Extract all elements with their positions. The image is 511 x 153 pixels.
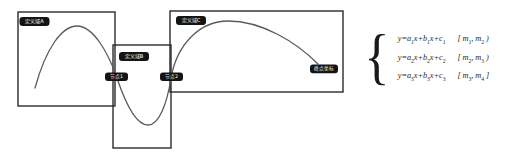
equation-interval-3: [ m3, m4 ] [457,71,489,82]
piecewise-curve-segment-a [35,26,117,88]
equation-system: { y=a1x+b1x+c1 [ m1, m2 ) y=a2x+b2x+c2 [… [362,18,510,98]
end-point-label: 终点坐标 [314,65,334,72]
domain-region-a-label: 定义域A [20,17,50,26]
node-1-marker[interactable]: 节点1 [105,73,128,82]
equation-row: y=a1x+b1x+c1 [ m1, m2 ) [398,34,489,45]
equation-interval-2: [ m2, m3 ) [457,53,488,64]
node-2-marker[interactable]: 节点2 [160,73,183,82]
domain-region-b-label-text: 定义域B [125,53,144,60]
domain-region-a-label-text: 定义域A [25,18,44,25]
piecewise-curve-segment-c [171,21,318,78]
piecewise-curve-segment-b [117,78,171,125]
equation-expression-3: y=a3x+b3x+c3 [398,71,446,82]
domain-region-c-label: 定义域C [176,16,206,25]
domain-region-c-label-text: 定义域C [182,17,201,24]
equation-expression-2: y=a2x+b2x+c2 [398,53,446,64]
domain-region-a-box[interactable] [18,12,115,106]
system-brace: { [364,56,389,60]
domain-region-b-label: 定义域B [119,52,149,61]
equation-interval-1: [ m1, m2 ) [457,34,488,45]
equation-row: y=a3x+b3x+c3 [ m3, m4 ] [398,71,489,82]
diagram-canvas: 定义域A 定义域B 定义域C 节点1 节点2 终点坐标 { [0,0,511,153]
equation-row: y=a2x+b2x+c2 [ m2, m3 ) [398,53,489,64]
equation-list: y=a1x+b1x+c1 [ m1, m2 ) y=a2x+b2x+c2 [ m… [394,34,489,82]
equation-expression-1: y=a1x+b1x+c1 [398,34,446,45]
end-point-marker[interactable]: 终点坐标 [310,65,338,74]
